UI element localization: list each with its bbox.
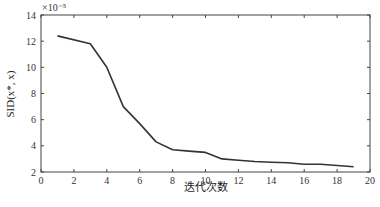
x-tick-label: 0 bbox=[39, 175, 44, 186]
axis-ticks: 024681012141618202468101214 bbox=[26, 10, 375, 187]
data-series bbox=[58, 36, 354, 167]
x-tick-label: 18 bbox=[332, 175, 342, 186]
line-chart: 024681012141618202468101214 ×10⁻⁵ 迭代次数 S… bbox=[0, 0, 380, 207]
x-tick-label: 16 bbox=[299, 175, 309, 186]
x-tick-label: 8 bbox=[170, 175, 175, 186]
y-multiplier-label: ×10⁻⁵ bbox=[42, 2, 66, 13]
y-tick-label: 6 bbox=[31, 114, 36, 125]
x-tick-label: 14 bbox=[266, 175, 276, 186]
y-tick-label: 12 bbox=[26, 36, 36, 47]
y-tick-label: 10 bbox=[26, 62, 36, 73]
x-tick-label: 12 bbox=[233, 175, 243, 186]
x-axis-label: 迭代次数 bbox=[184, 180, 228, 194]
y-tick-label: 4 bbox=[31, 140, 36, 151]
x-tick-label: 6 bbox=[137, 175, 142, 186]
y-tick-label: 14 bbox=[26, 10, 36, 21]
series-line bbox=[58, 36, 354, 167]
plot-frame bbox=[41, 15, 370, 172]
x-tick-label: 2 bbox=[71, 175, 76, 186]
plot-border bbox=[41, 15, 370, 172]
y-tick-label: 8 bbox=[31, 88, 36, 99]
x-tick-label: 4 bbox=[104, 175, 109, 186]
x-tick-label: 20 bbox=[365, 175, 375, 186]
y-axis-label: SID(x*, x) bbox=[4, 70, 17, 117]
y-tick-label: 2 bbox=[31, 167, 36, 178]
